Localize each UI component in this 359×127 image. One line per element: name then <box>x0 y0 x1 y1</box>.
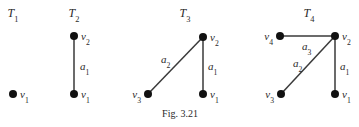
vertex-v2 <box>70 32 78 40</box>
nodes-layer <box>9 32 339 98</box>
vertex-label-v1: v1 <box>210 88 219 105</box>
vertex-label-v3: v3 <box>132 88 141 105</box>
edge-label-a1: a1 <box>80 60 90 77</box>
vertex-v2 <box>331 32 339 40</box>
vertex-v1 <box>199 90 207 98</box>
vertex-label-v1: v1 <box>342 88 351 105</box>
edge-label-a2: a2 <box>293 57 303 74</box>
tree-title-t1: T1 <box>8 6 19 24</box>
tree-title-t2: T2 <box>69 6 80 24</box>
vertex-label-v2: v2 <box>342 30 351 47</box>
vertex-label-v2: v2 <box>210 31 219 48</box>
vertex-v1 <box>9 90 17 98</box>
figure-caption: Fig. 3.21 <box>162 108 198 119</box>
vertex-label-v1: v1 <box>20 88 29 105</box>
tree-title-t4: T4 <box>304 6 316 24</box>
vertex-v1 <box>70 90 78 98</box>
vertex-label-v2: v2 <box>81 30 90 47</box>
vertex-v3 <box>144 90 152 98</box>
edge-label-a2: a2 <box>161 53 171 70</box>
edge-a2 <box>148 37 203 94</box>
edge-label-a1: a1 <box>340 60 350 77</box>
vertex-label-v1: v1 <box>81 88 90 105</box>
edge-label-a1: a1 <box>208 60 218 77</box>
vertex-v2 <box>199 33 207 41</box>
labels-layer: T1v1T2a1v2v1T3a1a2v2v1v3T4a3a2a1v4v2v3v1 <box>8 6 351 105</box>
tree-diagram: T1v1T2a1v2v1T3a1a2v2v1v3T4a3a2a1v4v2v3v1… <box>0 0 359 127</box>
vertex-label-v4: v4 <box>264 30 273 47</box>
vertex-v4 <box>276 32 284 40</box>
edge-a2 <box>281 36 335 94</box>
tree-title-t3: T3 <box>180 6 191 24</box>
vertex-v3 <box>277 90 285 98</box>
vertex-v1 <box>331 90 339 98</box>
vertex-label-v3: v3 <box>265 88 274 105</box>
edge-label-a3: a3 <box>302 40 312 57</box>
